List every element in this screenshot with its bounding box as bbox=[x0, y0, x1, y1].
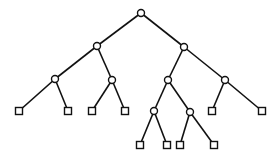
tree-edge bbox=[168, 80, 190, 112]
tree-edge bbox=[141, 13, 184, 47]
tree-edge bbox=[19, 79, 55, 111]
leaf-node-square-icon bbox=[137, 142, 144, 149]
internal-node-circle-icon bbox=[187, 109, 194, 116]
internal-node-circle-icon bbox=[181, 44, 188, 51]
leaf-node-square-icon bbox=[65, 108, 72, 115]
leaf-node-square-icon bbox=[177, 142, 184, 149]
tree-edge bbox=[154, 111, 167, 145]
tree-edge bbox=[140, 111, 154, 145]
tree-edge bbox=[168, 47, 184, 80]
internal-node-circle-icon bbox=[138, 10, 145, 17]
tree-edge bbox=[180, 112, 190, 145]
leaf-node-square-icon bbox=[211, 142, 218, 149]
internal-node-circle-icon bbox=[165, 77, 172, 84]
leaf-node-square-icon bbox=[259, 108, 266, 115]
tree-edge bbox=[190, 112, 214, 145]
tree-edge bbox=[112, 80, 125, 111]
leaf-node-square-icon bbox=[209, 108, 216, 115]
tree-edge bbox=[55, 46, 97, 79]
tree-edge bbox=[97, 13, 141, 46]
internal-node-circle-icon bbox=[151, 108, 158, 115]
tree-edge bbox=[212, 80, 225, 111]
tree-edge bbox=[97, 46, 112, 80]
tree-edge bbox=[184, 47, 225, 80]
tree-edge bbox=[225, 80, 262, 111]
leaf-node-square-icon bbox=[89, 108, 96, 115]
binary-tree-diagram bbox=[0, 0, 280, 162]
internal-node-circle-icon bbox=[52, 76, 59, 83]
leaf-node-square-icon bbox=[16, 108, 23, 115]
leaf-node-square-icon bbox=[122, 108, 129, 115]
internal-node-circle-icon bbox=[109, 77, 116, 84]
leaf-node-square-icon bbox=[164, 142, 171, 149]
tree-edge bbox=[55, 79, 68, 111]
tree-nodes bbox=[16, 10, 266, 149]
tree-edge bbox=[92, 80, 112, 111]
internal-node-circle-icon bbox=[222, 77, 229, 84]
internal-node-circle-icon bbox=[94, 43, 101, 50]
tree-edge bbox=[154, 80, 168, 111]
